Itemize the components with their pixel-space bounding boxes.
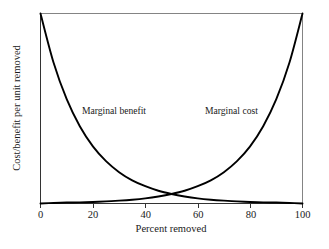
y-axis-title: Cost/benefit per unit removed bbox=[11, 44, 22, 170]
x-tick-label-60: 60 bbox=[193, 209, 204, 220]
x-tick-label-0: 0 bbox=[38, 209, 43, 220]
marginal-cost-label: Marginal cost bbox=[205, 105, 258, 116]
chart-figure: 0 20 40 60 80 100 Percent removed Cost/b… bbox=[0, 0, 329, 249]
marginal-cost-curve bbox=[41, 14, 303, 204]
x-tick-label-80: 80 bbox=[246, 209, 257, 220]
marginal-benefit-curve bbox=[41, 14, 303, 204]
x-tick-label-100: 100 bbox=[295, 209, 311, 220]
chart-plot-area: 0 20 40 60 80 100 Percent removed Cost/b… bbox=[0, 0, 329, 249]
x-tick-label-20: 20 bbox=[88, 209, 99, 220]
marginal-benefit-label: Marginal benefit bbox=[82, 105, 146, 116]
x-axis-title: Percent removed bbox=[136, 223, 208, 234]
x-tick-label-40: 40 bbox=[140, 209, 151, 220]
